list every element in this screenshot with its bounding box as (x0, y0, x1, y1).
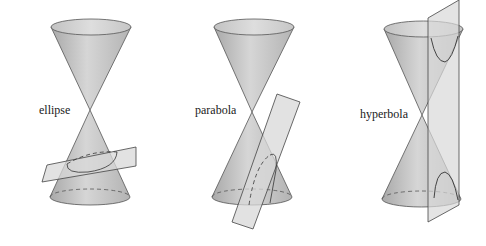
upper-rim (214, 19, 294, 35)
hyperbola-panel: hyperbola (360, 0, 463, 222)
parabola-panel: parabola (195, 19, 300, 229)
upper-cone (51, 27, 131, 110)
cutting-plane (428, 0, 459, 222)
ellipse-label: ellipse (39, 103, 70, 117)
parabola-label: parabola (195, 103, 237, 117)
upper-rim (51, 19, 131, 35)
hyperbola-label: hyperbola (360, 107, 409, 121)
conic-sections-diagram: ellipse parabola hyperbola (0, 0, 486, 246)
ellipse-panel: ellipse (39, 19, 136, 205)
